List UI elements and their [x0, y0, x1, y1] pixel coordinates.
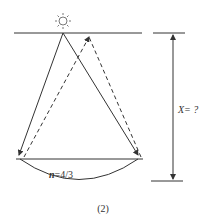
solid-ray-left	[19, 33, 63, 155]
diagram-svg	[0, 0, 207, 221]
diagram-canvas: n=4/3 X= ? (2)	[0, 0, 207, 221]
lens-curved-surface	[20, 159, 138, 180]
refractive-index-label: n=4/3	[49, 169, 73, 180]
solid-ray-right	[63, 33, 138, 155]
dashed-ray-right	[89, 37, 141, 157]
dashed-ray-left	[24, 37, 89, 157]
figure-caption: (2)	[97, 203, 109, 214]
distance-label: X= ?	[178, 104, 198, 115]
light-source-icon	[55, 13, 71, 29]
